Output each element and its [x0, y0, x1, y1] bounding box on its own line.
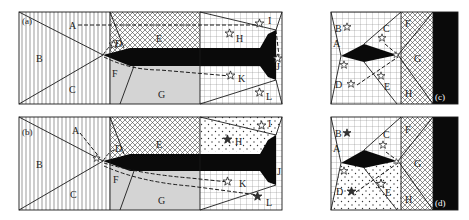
region-label-L: L — [266, 91, 272, 102]
panel-label-b: (b) — [22, 127, 33, 137]
region-label-G: G — [158, 195, 165, 206]
region-label-F: F — [405, 124, 411, 135]
region-label-L: L — [266, 197, 272, 208]
region-label-J: J — [277, 166, 281, 177]
region-label-E: E — [156, 139, 162, 150]
region-label-G: G — [414, 158, 421, 169]
region-label-F: F — [405, 18, 411, 29]
region-label-I: I — [268, 118, 271, 129]
panel-label-a: (a) — [22, 16, 32, 26]
region-label-C: C — [383, 23, 390, 34]
region-label-H: H — [405, 88, 412, 99]
panel-label-d: (d) — [435, 198, 446, 208]
region-label-F: F — [113, 174, 119, 185]
region-label-B: B — [36, 159, 43, 170]
region-label-H: H — [405, 194, 412, 205]
region-label-E: E — [384, 81, 390, 92]
region-label-A: A — [333, 143, 341, 154]
region-label-H: H — [235, 136, 242, 147]
region-label-D: D — [335, 79, 342, 90]
panel-b: (b) A B C D E F G H I J K L — [19, 117, 282, 210]
region-label-H: H — [236, 33, 243, 44]
region-label-G: G — [158, 89, 165, 100]
panel-d: A B C D E F G H (d) — [331, 117, 458, 210]
panel-label-c: (c) — [435, 92, 445, 102]
region-label-G: G — [414, 53, 421, 64]
figure-canvas: (a) A B C D E F G H I J K L — [0, 0, 469, 220]
region-label-D: D — [115, 38, 122, 49]
region-label-A: A — [333, 38, 341, 49]
region-label-F: F — [112, 68, 118, 79]
region-label-K: K — [238, 73, 246, 84]
region-label-C: C — [383, 129, 390, 140]
region-label-B: B — [335, 23, 342, 34]
region-label-E: E — [385, 187, 391, 198]
region-label-K: K — [239, 178, 247, 189]
region-label-J: J — [276, 61, 280, 72]
region-label-A: A — [72, 125, 80, 136]
region-label-C: C — [70, 189, 77, 200]
region-label-D: D — [115, 143, 122, 154]
region-label-D: D — [336, 186, 343, 197]
region-label-B: B — [335, 128, 342, 139]
region-label-E: E — [156, 33, 162, 44]
region-label-C: C — [69, 84, 76, 95]
region-label-A: A — [69, 20, 77, 31]
region-label-B: B — [36, 53, 43, 64]
panel-a: (a) A B C D E F G H I J K L — [19, 12, 282, 104]
panel-c: A B C D E F G H (c) — [331, 12, 458, 104]
region-label-I: I — [268, 15, 271, 26]
